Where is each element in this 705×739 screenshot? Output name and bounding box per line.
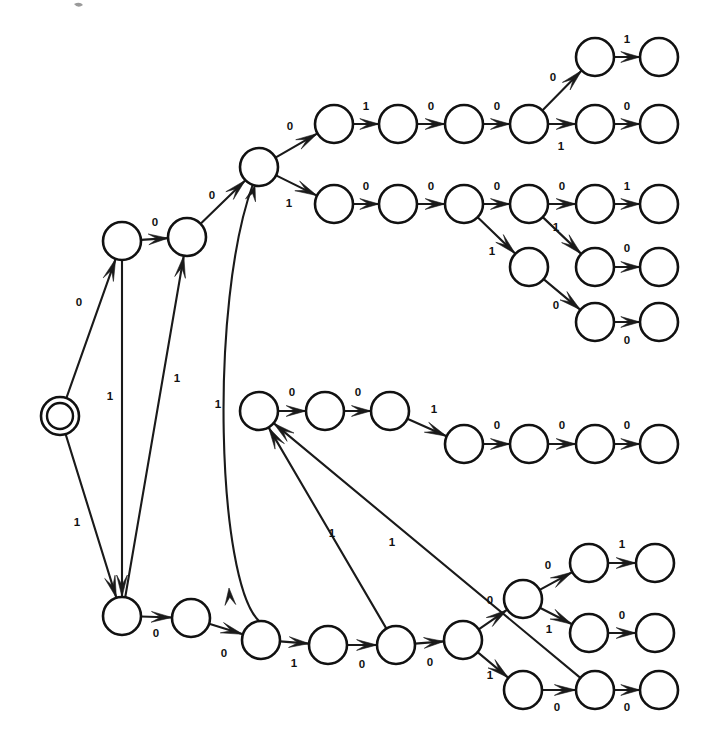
state-t1[interactable] — [315, 105, 353, 143]
state-u9[interactable] — [640, 248, 678, 286]
edge-label-1: 1 — [329, 527, 336, 539]
edge-label-0: 0 — [559, 180, 565, 192]
state-b8[interactable] — [636, 544, 674, 582]
edge-label-1: 1 — [363, 100, 370, 112]
edge-label-0: 0 — [624, 419, 630, 431]
edge-label-0: 0 — [359, 658, 365, 670]
edge-label-1: 1 — [389, 536, 396, 548]
edge-label-1: 1 — [291, 657, 298, 669]
edge-label-1: 1 — [286, 197, 293, 209]
edge-label-1: 1 — [107, 390, 114, 402]
edge-label-0: 0 — [553, 299, 559, 311]
edge-label-1: 1 — [624, 180, 631, 192]
edge-label-1: 1 — [558, 140, 565, 152]
state-b4[interactable] — [377, 626, 415, 664]
state-u10[interactable] — [576, 303, 614, 341]
edge-label-0: 0 — [289, 386, 295, 398]
state-a1[interactable] — [103, 222, 141, 260]
automaton-diagram: 0101011010001101000011010000100011001000… — [0, 0, 705, 739]
edge-label-0: 0 — [287, 120, 293, 132]
state-u8[interactable] — [576, 248, 614, 286]
edge-label-1: 1 — [74, 516, 81, 528]
state-b9[interactable] — [570, 614, 608, 652]
edge-label-0: 0 — [76, 296, 82, 308]
state-t7[interactable] — [576, 105, 614, 143]
edge-label-1: 1 — [215, 398, 222, 410]
edge-label-0: 0 — [363, 180, 369, 192]
edge-label-0: 0 — [427, 656, 433, 668]
edge-label-1: 1 — [624, 33, 631, 45]
state-b1[interactable] — [172, 599, 210, 637]
edge-label-0: 0 — [545, 559, 551, 571]
state-m5[interactable] — [576, 425, 614, 463]
edge-label-1: 1 — [174, 372, 181, 384]
state-b5[interactable] — [444, 621, 482, 659]
edge-label-0: 0 — [550, 71, 556, 83]
state-b0[interactable] — [103, 597, 141, 635]
edge-label-1: 1 — [487, 669, 494, 681]
state-m6[interactable] — [640, 425, 678, 463]
edge-label-0: 0 — [487, 594, 493, 606]
edge-label-0: 0 — [428, 180, 434, 192]
state-u5[interactable] — [576, 185, 614, 223]
edge-label-1: 1 — [553, 221, 560, 233]
state-t6[interactable] — [640, 38, 678, 76]
edge-label-0: 0 — [554, 701, 560, 713]
edge-label-0: 0 — [619, 609, 625, 621]
edge-label-1: 1 — [619, 538, 626, 550]
state-m2[interactable] — [371, 392, 409, 430]
state-m4[interactable] — [510, 425, 548, 463]
edge-label-0: 0 — [221, 647, 227, 659]
state-b11[interactable] — [504, 671, 542, 709]
state-b7[interactable] — [570, 544, 608, 582]
state-hub[interactable] — [240, 148, 278, 186]
state-t4[interactable] — [510, 105, 548, 143]
edge-label-0: 0 — [355, 386, 361, 398]
state-t2[interactable] — [379, 105, 417, 143]
edge-label-0: 0 — [624, 701, 630, 713]
state-a2[interactable] — [168, 218, 206, 256]
state-b12[interactable] — [576, 671, 614, 709]
state-b10[interactable] — [636, 614, 674, 652]
start-accept-state-q0[interactable] — [41, 397, 79, 435]
state-t8[interactable] — [640, 105, 678, 143]
edge-label-1: 1 — [546, 623, 553, 635]
state-m1[interactable] — [306, 392, 344, 430]
state-u3[interactable] — [445, 185, 483, 223]
edge-label-1: 1 — [431, 403, 438, 415]
edge-label-0: 0 — [428, 100, 434, 112]
edge-label-0: 0 — [624, 242, 630, 254]
state-t5[interactable] — [576, 38, 614, 76]
state-u1[interactable] — [315, 185, 353, 223]
state-u2[interactable] — [379, 185, 417, 223]
edge-label-0: 0 — [209, 189, 215, 201]
edge-label-0: 0 — [152, 216, 158, 228]
state-b13[interactable] — [640, 671, 678, 709]
edge-label-1: 1 — [489, 245, 496, 257]
edge-label-0: 0 — [494, 419, 500, 431]
state-b6[interactable] — [504, 580, 542, 618]
state-u11[interactable] — [640, 303, 678, 341]
edge-label-0: 0 — [494, 100, 500, 112]
state-u4[interactable] — [510, 185, 548, 223]
state-u7[interactable] — [510, 248, 548, 286]
state-m3[interactable] — [445, 425, 483, 463]
edge-label-0: 0 — [559, 419, 565, 431]
state-b3[interactable] — [309, 626, 347, 664]
edge-label-0: 0 — [624, 100, 630, 112]
edge-label-0: 0 — [624, 334, 630, 346]
accept-state-inner-ring — [47, 403, 73, 429]
edge-label-0: 0 — [153, 627, 159, 639]
state-b2[interactable] — [242, 621, 280, 659]
state-m0[interactable] — [240, 392, 278, 430]
automaton-canvas: 0101011010001101000011010000100011001000… — [0, 0, 705, 739]
state-t3[interactable] — [445, 105, 483, 143]
state-u6[interactable] — [640, 185, 678, 223]
edge-label-0: 0 — [494, 180, 500, 192]
